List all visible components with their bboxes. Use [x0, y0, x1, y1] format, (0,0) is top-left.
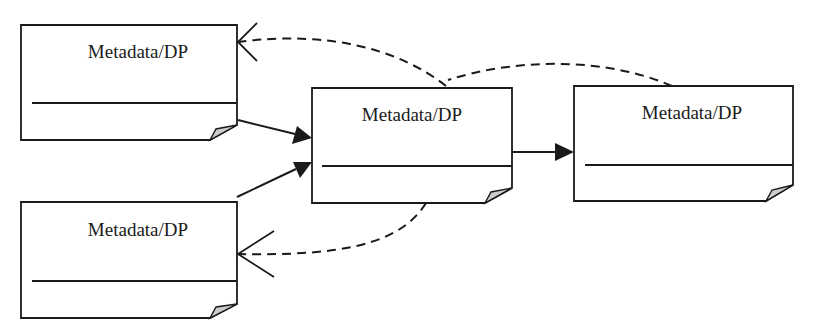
node-label: Metadata/DP — [362, 104, 462, 125]
edge-center-to-right — [512, 143, 574, 161]
filled-arrowhead-icon — [555, 143, 574, 161]
metadata-dp-diagram: Metadata/DP Metadata/DP Metadata/DP Meta… — [0, 0, 813, 334]
edge-center-to-top-left — [238, 23, 446, 86]
node-label: Metadata/DP — [642, 102, 742, 123]
node-label: Metadata/DP — [88, 219, 188, 240]
filled-arrowhead-icon — [292, 126, 312, 144]
edge-top-left-to-center — [238, 120, 312, 144]
node-top-left: Metadata/DP — [21, 25, 237, 140]
edge-center-to-bottom-left — [238, 203, 426, 277]
edge-right-to-top-left — [448, 64, 672, 86]
edge-bottom-left-to-center — [237, 162, 312, 197]
node-center: Metadata/DP — [312, 88, 512, 203]
node-right: Metadata/DP — [574, 86, 793, 201]
node-label: Metadata/DP — [88, 41, 188, 62]
node-bottom-left: Metadata/DP — [21, 202, 237, 318]
